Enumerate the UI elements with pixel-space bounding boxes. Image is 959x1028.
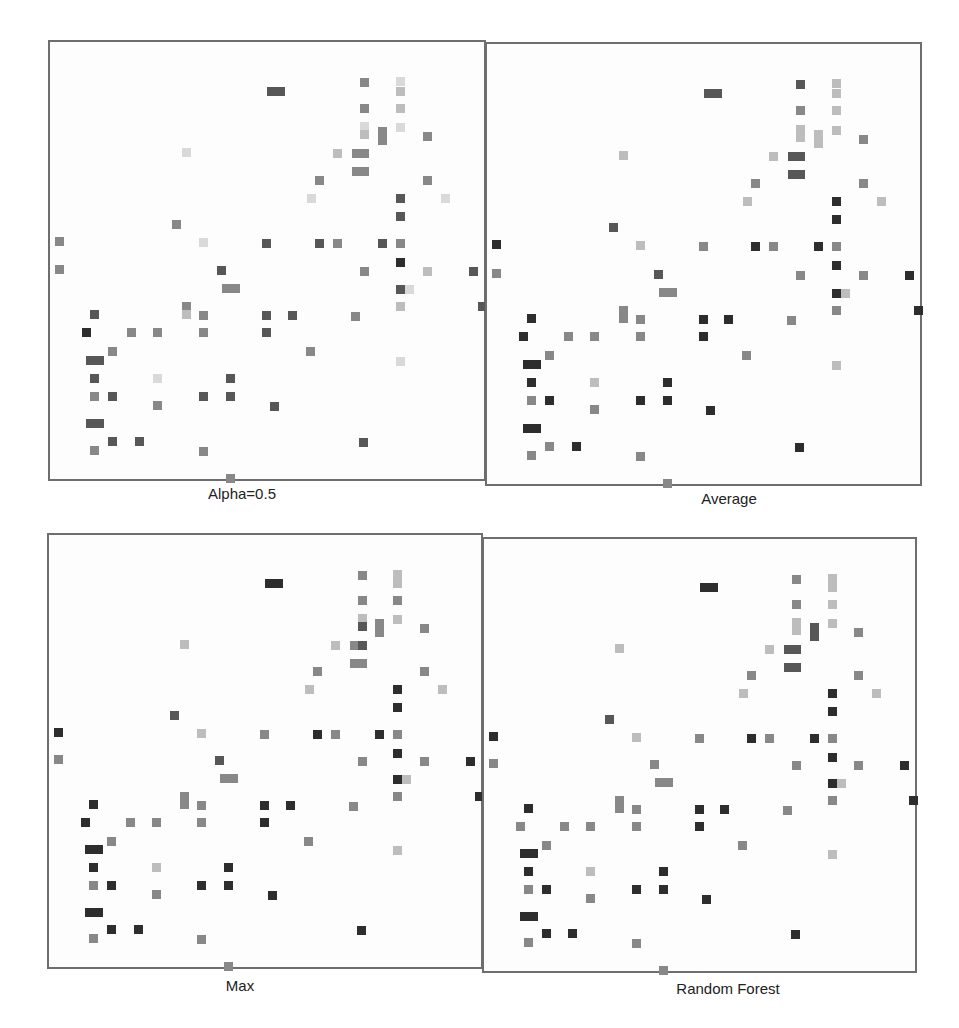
heatmap-cell <box>262 328 271 337</box>
heatmap-cell <box>393 685 402 694</box>
heatmap-cell <box>396 357 405 366</box>
heatmap-cell <box>393 703 402 712</box>
heatmap-cell <box>792 761 801 770</box>
heatmap-cell <box>695 734 704 743</box>
heatmap-cell <box>615 804 624 813</box>
heatmap-cell <box>82 328 91 337</box>
heatmap-cell <box>108 392 117 401</box>
heatmap-cell <box>180 640 189 649</box>
heatmap-cell <box>527 378 536 387</box>
heatmap-cell <box>393 579 402 588</box>
heatmap-cell <box>659 966 668 975</box>
heatmap-cell <box>791 930 800 939</box>
heatmap-cell <box>636 452 645 461</box>
heatmap-cell <box>632 733 641 742</box>
heatmap-cell <box>260 730 269 739</box>
heatmap-cell <box>560 822 569 831</box>
heatmap-cell <box>152 818 161 827</box>
heatmap-cell <box>832 361 841 370</box>
heatmap-cell <box>393 596 402 605</box>
heatmap-cell <box>828 734 837 743</box>
heatmap-cell <box>590 405 599 414</box>
heatmap-cell <box>905 271 914 280</box>
heatmap-cell <box>307 194 316 203</box>
heatmap-cell <box>360 78 369 87</box>
heatmap-cell <box>828 619 837 628</box>
heatmap-cell <box>304 837 313 846</box>
heatmap-cell <box>393 846 402 855</box>
heatmap-cell <box>747 734 756 743</box>
heatmap-cell <box>590 332 599 341</box>
heatmap-cell <box>854 628 863 637</box>
heatmap-cell <box>217 266 226 275</box>
heatmap-cell <box>153 374 162 383</box>
heatmap-cell <box>375 619 384 637</box>
heatmap-cell <box>765 645 774 654</box>
heatmap-cell <box>524 938 533 947</box>
heatmap-cell <box>226 392 235 401</box>
heatmap-cell <box>215 756 224 765</box>
heatmap-cell <box>393 792 402 801</box>
heatmap-cell <box>358 659 367 668</box>
heatmap-cell <box>89 800 98 809</box>
heatmap-cell <box>393 615 402 624</box>
heatmap-cell <box>841 289 850 298</box>
heatmap-cell <box>90 392 99 401</box>
heatmap-cell <box>360 267 369 276</box>
heatmap-cell <box>832 126 841 135</box>
heatmap-cell <box>659 885 668 894</box>
heatmap-cell <box>632 885 641 894</box>
heatmap-cell <box>469 267 478 276</box>
heatmap-cell <box>695 805 704 814</box>
heatmap-cell <box>360 104 369 113</box>
heatmap-cell <box>226 374 235 383</box>
heatmap-cell <box>814 130 823 148</box>
heatmap-cell <box>489 759 498 768</box>
heatmap-cell <box>655 778 673 787</box>
heatmap-cell <box>260 818 269 827</box>
heatmap-cell <box>619 151 628 160</box>
heatmap-cell <box>792 600 801 609</box>
heatmap-cell <box>396 194 405 203</box>
heatmap-cell <box>765 734 774 743</box>
heatmap-cell <box>305 685 314 694</box>
heatmap-cell <box>636 332 645 341</box>
heatmap-cell <box>396 258 405 267</box>
heatmap-cell <box>854 761 863 770</box>
heatmap-cell <box>524 867 533 876</box>
heatmap-cell <box>358 622 367 631</box>
heatmap-cell <box>405 285 414 294</box>
heatmap-cell <box>619 314 628 323</box>
heatmap-cell <box>360 149 369 158</box>
heatmap-panel-average <box>485 42 922 486</box>
heatmap-cell <box>393 570 402 579</box>
heatmap-cell <box>832 306 841 315</box>
heatmap-cell <box>134 925 143 934</box>
heatmap-cell <box>783 806 792 815</box>
heatmap-cell <box>182 310 191 319</box>
heatmap-cell <box>107 881 116 890</box>
heatmap-cell <box>423 132 432 141</box>
heatmap-cell <box>107 837 116 846</box>
heatmap-cell <box>226 474 235 483</box>
heatmap-cell <box>699 242 708 251</box>
heatmap-cell <box>832 79 841 88</box>
heatmap-cell <box>378 239 387 248</box>
heatmap-cell <box>615 644 624 653</box>
heatmap-cell <box>224 962 233 971</box>
heatmap-cell <box>441 194 450 203</box>
heatmap-cell <box>699 332 708 341</box>
heatmap-cell <box>568 929 577 938</box>
heatmap-cell <box>859 271 868 280</box>
panel-label-random-forest: Random Forest <box>628 980 828 997</box>
heatmap-cell <box>654 270 663 279</box>
heatmap-cell <box>832 89 841 98</box>
heatmap-cell <box>586 894 595 903</box>
heatmap-cell <box>492 240 501 249</box>
heatmap-cell <box>738 841 747 850</box>
heatmap-cell <box>572 442 581 451</box>
heatmap-cell <box>810 623 819 641</box>
heatmap-cell <box>135 437 144 446</box>
heatmap-cell <box>796 80 805 89</box>
heatmap-cell <box>792 626 801 635</box>
